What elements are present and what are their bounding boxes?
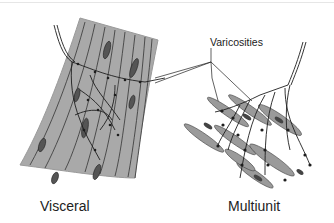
smooth-muscle-illustration <box>0 0 334 223</box>
visceral-label: Visceral <box>40 198 90 214</box>
multiunit-muscle-cells <box>182 42 312 191</box>
varicosities-label: Varicosities <box>210 36 263 48</box>
multiunit-label: Multiunit <box>228 198 280 214</box>
visceral-muscle-sheet <box>20 18 165 185</box>
